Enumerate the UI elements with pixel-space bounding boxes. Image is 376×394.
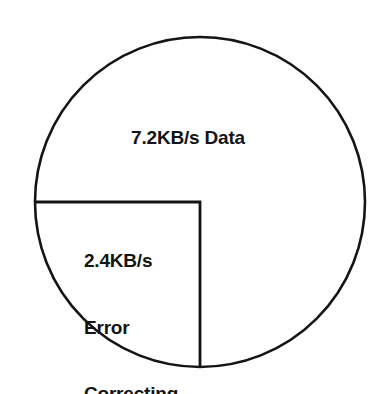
pie-chart-svg [0,0,376,394]
pie-label-ecc-line-2: Error [84,315,178,341]
pie-label-data: 7.2KB/s Data [0,128,376,149]
pie-label-ecc: 2.4KB/s Error Correcting Code [84,207,178,394]
pie-label-ecc-line-1: 2.4KB/s [84,248,178,274]
pie-label-ecc-line-3: Correcting [84,381,178,394]
pie-chart-figure: 7.2KB/s Data 2.4KB/s Error Correcting Co… [0,0,376,394]
